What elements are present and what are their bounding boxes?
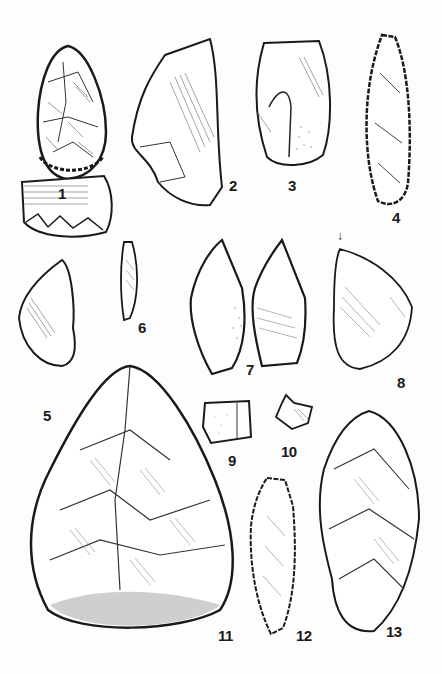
artifact-7-label: 7	[246, 362, 254, 377]
burin-blow-arrow-icon: ↓	[337, 230, 343, 242]
artifact-8-drawing	[330, 247, 415, 372]
artifact-2-label: 2	[229, 178, 237, 193]
artifact-13-drawing	[314, 409, 424, 634]
artifact-10-label: 10	[281, 444, 297, 459]
artifact-5-drawing	[17, 258, 79, 368]
artifact-10-drawing	[274, 393, 316, 431]
artifact-1-label: 1	[58, 186, 66, 201]
artifact-3-label: 3	[288, 178, 296, 193]
artifact-11-label: 11	[218, 628, 233, 643]
artifact-1-profile	[18, 172, 114, 242]
artifact-11-drawing	[20, 360, 240, 640]
artifact-8-label: 8	[397, 375, 405, 390]
artifact-3-drawing	[249, 37, 334, 172]
artifact-2-drawing	[130, 37, 225, 207]
artifact-4-label: 4	[392, 210, 400, 225]
artifact-1-drawing	[18, 42, 114, 182]
artifact-6-drawing	[118, 240, 140, 322]
artifact-plate: 1 2 3 4 5	[0, 0, 442, 674]
artifact-13-label: 13	[386, 624, 402, 639]
artifact-4-drawing	[360, 33, 416, 208]
artifact-12-drawing	[247, 476, 299, 636]
artifact-6-label: 6	[138, 320, 146, 335]
artifact-12-label: 12	[296, 628, 312, 643]
artifact-7-drawing	[187, 238, 317, 378]
